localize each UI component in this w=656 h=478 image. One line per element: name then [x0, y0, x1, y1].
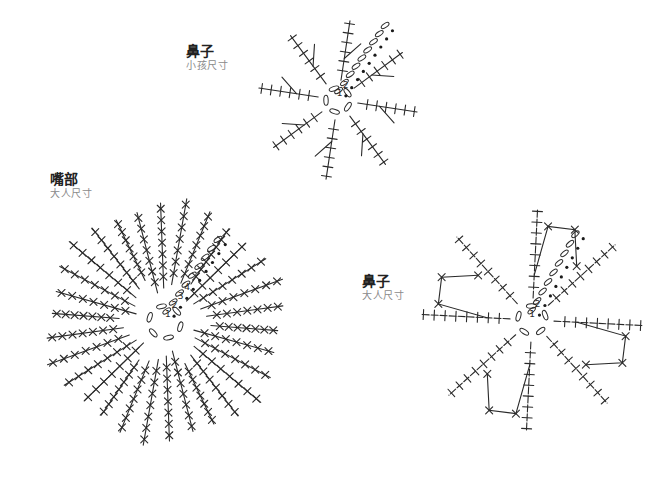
chain-stitch-oval — [535, 326, 546, 336]
round-number: 2 — [535, 299, 541, 309]
spoke-line — [548, 245, 615, 305]
chain-stitch-oval — [519, 327, 530, 336]
slip-stitch-dot — [549, 294, 552, 297]
spoke-line — [449, 335, 516, 395]
chain-stitch-oval — [549, 268, 558, 277]
slip-stitch-dot — [538, 313, 541, 316]
slip-stitch-dot — [554, 285, 557, 288]
crochet-chart-nose-adult: 12 — [0, 0, 656, 478]
chain-stitch-oval — [541, 310, 549, 321]
chain-stitch-oval — [554, 258, 563, 267]
slip-stitch-dot — [565, 266, 568, 269]
chain-stitch-oval — [538, 287, 547, 296]
chain-stitch-oval — [565, 239, 574, 248]
slip-stitch-dot — [576, 247, 579, 250]
slip-stitch-dot — [543, 304, 546, 307]
chain-stitch-oval — [515, 311, 522, 322]
chain-stitch-oval — [543, 278, 552, 287]
slip-stitch-dot — [571, 256, 574, 259]
spoke-line — [547, 336, 607, 403]
chain-stitch-oval — [560, 249, 569, 258]
round-number: 1 — [529, 309, 535, 319]
slip-stitch-dot — [560, 275, 563, 278]
slip-stitch-dot — [582, 237, 585, 240]
spoke-line — [457, 237, 517, 304]
